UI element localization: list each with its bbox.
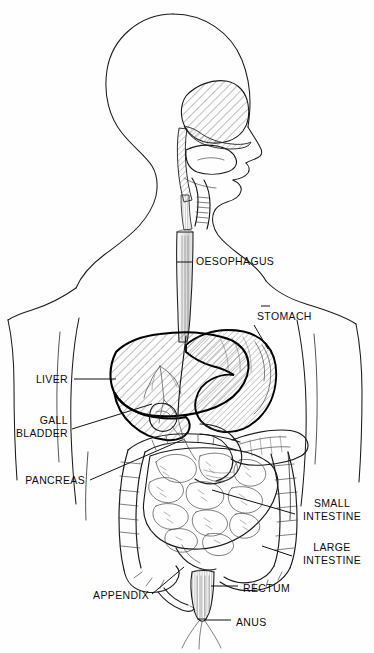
digestive-system-diagram: OESOPHAGUS STOMACH LIVER GALL BLADDER PA…	[0, 0, 374, 653]
label-oesophagus: OESOPHAGUS	[196, 255, 274, 267]
label-gall-bladder-line1: GALL	[40, 414, 68, 426]
label-small-intestine-line1: SMALL	[314, 497, 350, 509]
label-large-intestine-line2: INTESTINE	[303, 554, 361, 566]
label-appendix: APPENDIX	[93, 589, 149, 601]
label-rectum: RECTUM	[243, 582, 290, 594]
label-anus: ANUS	[236, 616, 267, 628]
label-small-intestine-line2: INTESTINE	[303, 510, 361, 522]
digestive-system-figure: OESOPHAGUS STOMACH LIVER GALL BLADDER PA…	[0, 0, 374, 653]
label-stomach: STOMACH	[257, 310, 312, 322]
label-liver: LIVER	[36, 373, 68, 385]
label-pancreas: PANCREAS	[25, 474, 85, 486]
label-large-intestine-line1: LARGE	[313, 541, 350, 553]
label-gall-bladder-line2: BLADDER	[16, 427, 68, 439]
